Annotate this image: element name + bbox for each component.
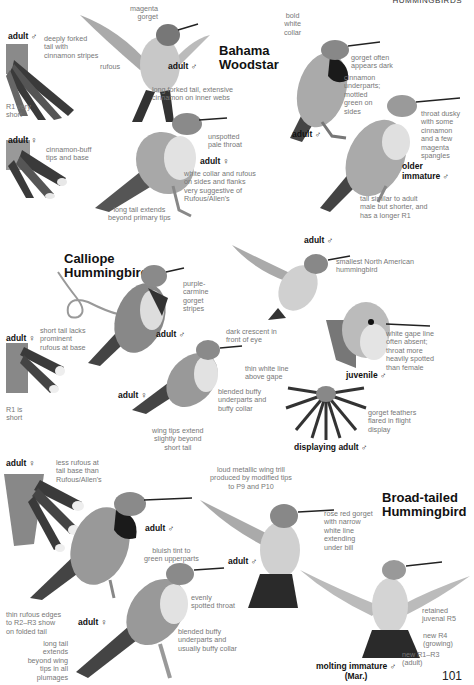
figure-label: molting immature ♂ (Mar.) — [316, 662, 396, 681]
figure-label: adult ♂ — [304, 236, 333, 246]
figure-note: thin white line above gape — [245, 365, 289, 382]
figure-note: long tail extends beyond primary tips — [108, 206, 171, 223]
figure-label: adult ♂ — [168, 62, 197, 72]
figure-note: new R1–R3 (adult) — [402, 651, 440, 668]
figure-note: white collar and rufous on sides and fla… — [184, 170, 256, 204]
figure-note: bold white collar — [284, 12, 301, 37]
figure-note: long forked tail, extensive cinnamon on … — [152, 86, 233, 103]
figure-label: adult ♀ — [6, 334, 35, 344]
species-title-bahama-woodstar: Bahama Woodstar — [219, 44, 279, 72]
figure-label: adult ♀ — [8, 136, 37, 146]
figure-note: retained juvenal R5 — [422, 607, 456, 624]
figure-label: adult ♀ — [6, 459, 35, 469]
figure-label: adult ♂ — [292, 130, 321, 140]
figure-label: adult ♀ — [78, 618, 107, 628]
figure-label: adult ♂ — [156, 330, 185, 340]
figure-note: tail similar to adult male but shorter, … — [360, 195, 428, 220]
figure-label: older immature ♂ — [402, 162, 449, 181]
page-number: 101 — [442, 669, 462, 683]
figure-note: gorget often appears dark — [351, 54, 393, 71]
figure-label: displaying adult ♂ — [294, 443, 367, 453]
figure-note: new R4 (growing) — [423, 632, 453, 649]
figure-note: R1 very short — [6, 103, 31, 120]
figure-label: adult ♂ — [228, 557, 257, 567]
figure-label: adult ♂ — [145, 524, 174, 534]
bird-illustration-calliope-displaying-male — [286, 384, 366, 440]
figure-note: purple- carmine gorget stripes — [183, 280, 209, 314]
figure-note: evenly spotted throat — [191, 594, 235, 611]
figure-note: loud metallic wing trill produced by mod… — [210, 466, 292, 491]
figure-note: blended buffy underparts and usually buf… — [178, 628, 237, 653]
figure-label: adult ♀ — [200, 157, 229, 167]
figure-note: dark crescent in front of eye — [226, 328, 277, 345]
figure-note: magenta gorget — [130, 5, 158, 22]
species-title-broad-tailed-hummingbird: Broad-tailed Hummingbird — [382, 491, 467, 519]
figure-note: long tail extends beyond wing tips in al… — [18, 640, 68, 682]
figure-note: wing tips extend slightly beyond short t… — [152, 427, 204, 452]
figure-note: cinnamon-buff tips and base — [46, 146, 91, 163]
figure-label: adult ♀ — [118, 391, 147, 401]
figure-note: gorget feathers flared in flight display — [368, 409, 416, 434]
figure-label: adult ♂ — [8, 32, 37, 42]
figure-note: white gape line often absent; throat mor… — [386, 330, 434, 372]
figure-note: blended buffy underparts and buffy colla… — [218, 388, 266, 413]
figure-note: smallest North American hummingbird — [336, 258, 414, 275]
figure-note: R1 is short — [6, 406, 22, 423]
figure-note: unspotted pale throat — [208, 133, 242, 150]
figure-label: juvenile ♂ — [346, 371, 386, 381]
figure-note: short tail lacks prominent rufous at bas… — [40, 327, 86, 352]
section-header: HUMMINGBIRDS — [392, 0, 462, 5]
figure-note: rose red gorget with narrow white line e… — [324, 510, 373, 552]
figure-note: thin rufous edges to R2–R3 show on folde… — [6, 611, 61, 636]
figure-note: throat dusky with some cinnamon and a fe… — [421, 110, 460, 160]
field-guide-page: HUMMINGBIRDS Bahama Woodstar adult ♂ dee… — [0, 0, 474, 685]
figure-note: rufous — [100, 63, 120, 71]
